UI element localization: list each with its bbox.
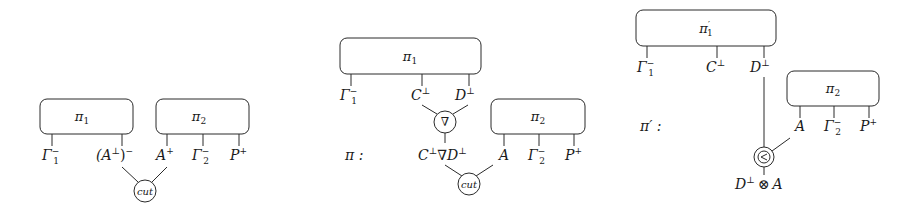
proof-box-pi1-prime: π′1 [636, 10, 776, 46]
port-label-c-perp: C⊥ [411, 86, 430, 103]
port-label-d-perp: D⊥ [454, 86, 475, 103]
panel-par-cut: π : π1 Γ−1 C⊥ D⊥ ∇ C⊥∇D⊥ π2 A Γ−2 P+ [339, 38, 585, 195]
port-label-p-pos: P+ [229, 146, 247, 163]
cut-wire-right [152, 167, 167, 182]
par-wire-left [422, 105, 437, 114]
panel-tensor-result: π′ : π′1 Γ−1 C⊥ D⊥ π2 A Γ−2 P+ ⊗ [636, 10, 879, 192]
port-label-a-perp-neg: (A⊥)− [96, 146, 133, 163]
port-label-c-perp: C⊥ [706, 58, 725, 75]
cut-node: cut [458, 173, 480, 195]
cut-node: cut [134, 180, 156, 202]
port-label-a: A [497, 147, 509, 163]
cut-wire-right [476, 165, 493, 176]
port-label-gamma1-neg: Γ−1 [41, 146, 59, 166]
port-label-a: A [793, 118, 805, 134]
proof-net-diagram: π1 Γ−1 (A⊥)− π2 A+ Γ−2 P+ cut π : π1 [0, 0, 920, 210]
cut-wire-left [445, 165, 462, 176]
cut-wire-left [122, 167, 138, 182]
proof-box-pi2: π2 [787, 71, 879, 106]
par-conclusion-label: C⊥∇D⊥ [418, 146, 467, 163]
port-label-gamma2-neg: Γ−2 [191, 146, 209, 166]
port-label-gamma1-neg: Γ−1 [636, 58, 654, 78]
par-node: ∇ [434, 111, 456, 133]
port-label-gamma2-neg: Γ−2 [823, 117, 841, 137]
proof-box-pi1: π1 [40, 99, 133, 134]
port-label-gamma2-neg: Γ−2 [527, 146, 545, 166]
tensor-conclusion-label: D⊥⊗A [734, 175, 783, 192]
proof-box-pi2: π2 [156, 99, 249, 134]
port-label-a-pos: A+ [154, 146, 174, 163]
svg-text:cut: cut [461, 179, 478, 190]
port-label-p-pos: P+ [564, 146, 582, 163]
proof-box-pi2: π2 [491, 99, 585, 134]
tensor-node: ⊗ [754, 147, 774, 167]
proof-name-label: π′ : [639, 118, 662, 134]
port-label-p-pos: P+ [859, 117, 877, 134]
port-label-d-perp: D⊥ [749, 58, 770, 75]
tensor-wire-right [772, 138, 790, 151]
port-label-gamma1-neg: Γ−1 [339, 86, 357, 106]
par-wire-right [453, 105, 468, 114]
svg-text:cut: cut [137, 186, 154, 197]
svg-text:∇: ∇ [441, 115, 449, 129]
proof-box-pi1: π1 [340, 38, 481, 74]
panel-before-cut: π1 Γ−1 (A⊥)− π2 A+ Γ−2 P+ cut [40, 99, 249, 202]
proof-name-label: π : [344, 147, 363, 163]
